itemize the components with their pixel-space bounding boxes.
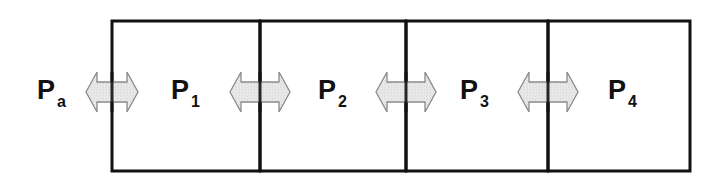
label-pa: Pa	[37, 77, 66, 104]
label-p2: P2	[318, 77, 347, 104]
label-symbol: P	[318, 75, 336, 105]
label-symbol: P	[37, 75, 55, 105]
label-symbol: P	[460, 75, 478, 105]
label-p4: P4	[608, 77, 637, 104]
label-subscript: 2	[338, 93, 347, 110]
label-symbol: P	[171, 75, 189, 105]
label-subscript: 1	[191, 93, 200, 110]
label-p3: P3	[460, 77, 489, 104]
compartment-diagram: Pa P1 P2 P3 P4	[0, 0, 725, 184]
label-symbol: P	[608, 75, 626, 105]
label-subscript: a	[57, 93, 66, 110]
label-subscript: 4	[628, 93, 637, 110]
label-p1: P1	[171, 77, 200, 104]
label-subscript: 3	[480, 93, 489, 110]
